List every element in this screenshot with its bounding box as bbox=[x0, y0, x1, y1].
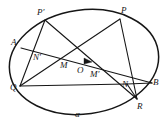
point-label-N: N bbox=[122, 80, 128, 89]
geometry-figure: A P′ P B R Q N′ M O M′ N α bbox=[0, 0, 167, 125]
point-label-P-prime: P′ bbox=[37, 8, 44, 17]
point-label-Q: Q bbox=[10, 83, 17, 92]
point-label-P: P bbox=[121, 6, 127, 15]
point-label-M: M bbox=[60, 61, 68, 70]
point-label-B: B bbox=[153, 78, 159, 87]
point-label-A: A bbox=[11, 38, 17, 47]
curve-label-alpha: α bbox=[75, 110, 80, 119]
point-label-O: O bbox=[77, 66, 84, 75]
point-label-M-prime: M′ bbox=[90, 70, 99, 79]
point-label-N-prime: N′ bbox=[33, 53, 41, 62]
segment-Q-N bbox=[20, 84, 127, 86]
point-label-R: R bbox=[137, 102, 143, 111]
